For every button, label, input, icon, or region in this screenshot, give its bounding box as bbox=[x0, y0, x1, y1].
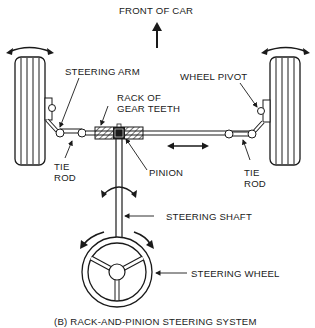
left-wheel-rotation-arrow-icon bbox=[6, 48, 54, 56]
right-wheel-rotation-arrow-icon bbox=[261, 48, 310, 56]
steering-wheel bbox=[82, 237, 152, 307]
rack-label-line2: GEAR TEETH bbox=[117, 103, 180, 114]
wheel-pivot-label: WHEEL PIVOT bbox=[180, 71, 247, 82]
left-linkage bbox=[47, 120, 86, 137]
front-of-car-label: FRONT OF CAR bbox=[119, 5, 193, 16]
steering-wheel-label: STEERING WHEEL bbox=[191, 268, 280, 279]
rack-label: RACK OF GEAR TEETH bbox=[117, 92, 180, 114]
shaft-rotation-arrow-icon bbox=[101, 187, 137, 198]
tie-rod-right-line2: ROD bbox=[244, 178, 266, 189]
tie-rod-right-label: TIE ROD bbox=[244, 167, 266, 189]
rack-label-line1: RACK OF bbox=[117, 92, 180, 103]
right-wheel bbox=[258, 57, 301, 165]
steering-arm-label: STEERING ARM bbox=[65, 66, 140, 77]
pinion-label: PINION bbox=[149, 167, 183, 178]
tie-rod-left-line1: TIE bbox=[54, 161, 76, 172]
left-wheel bbox=[15, 57, 56, 165]
tie-rod-left-label: TIE ROD bbox=[54, 161, 76, 183]
tie-rod-left-line2: ROD bbox=[54, 172, 76, 183]
steering-shaft-label: STEERING SHAFT bbox=[166, 211, 252, 222]
rack-motion-arrow-icon bbox=[167, 143, 209, 150]
right-linkage bbox=[225, 122, 263, 138]
diagram-caption: (B) RACK-AND-PINION STEERING SYSTEM bbox=[54, 316, 257, 327]
tie-rod-right-line1: TIE bbox=[244, 167, 266, 178]
front-arrow-icon bbox=[152, 22, 162, 48]
